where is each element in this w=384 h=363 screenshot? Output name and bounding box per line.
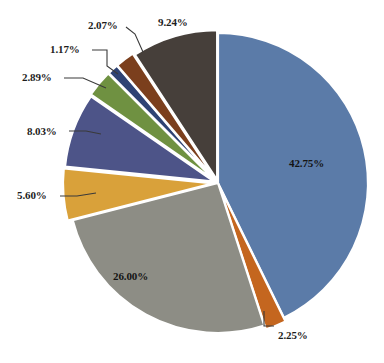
pie-chart: 42.75%2.25%26.00%5.60%8.03%2.89%1.17%2.0… [0,0,384,363]
pie-slice-label: 5.60% [17,190,47,201]
pie-slice-label: 1.17% [50,44,80,55]
leader-line [126,27,143,52]
pie-slice-label: 2.25% [278,330,308,341]
pie-slice-label: 2.89% [22,72,52,83]
pie-slice-label: 42.75% [289,158,324,169]
pie-slice-group [63,30,368,333]
pie-slice-label: 8.03% [27,126,57,137]
pie-slice-label: 9.24% [158,17,188,28]
pie-slice-label: 26.00% [113,271,148,282]
pie-slice-label: 2.07% [88,20,118,31]
